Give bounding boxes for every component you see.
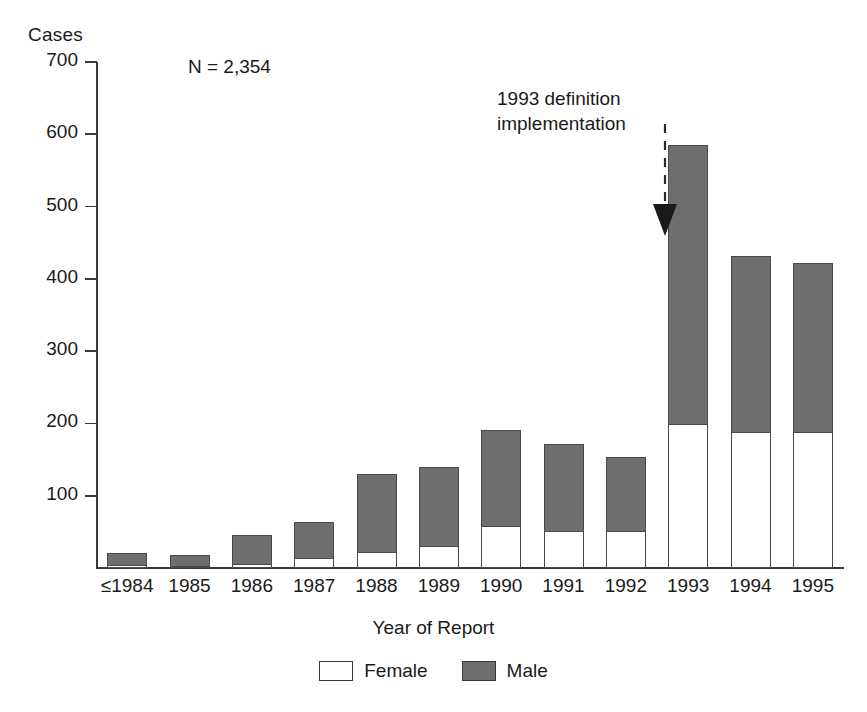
legend-item: Male xyxy=(462,660,548,682)
x-axis-title: Year of Report xyxy=(0,617,867,639)
bar-group xyxy=(606,456,646,568)
x-axis-tick-labels: ≤198419851986198719881989199019911992199… xyxy=(96,575,844,605)
bar-segment-male xyxy=(294,522,334,560)
dashed-down-arrow-icon xyxy=(648,124,682,238)
definition-callout-line1: 1993 definition xyxy=(497,86,626,111)
y-tick-label: 200 xyxy=(22,410,78,432)
bar-segment-male xyxy=(170,555,210,567)
bar-segment-male xyxy=(793,263,833,432)
bar-group xyxy=(419,466,459,568)
bar-segment-male xyxy=(419,467,459,547)
bar-segment-female xyxy=(481,526,521,568)
bar-segment-female xyxy=(793,431,833,568)
bar-segment-female xyxy=(544,530,584,568)
legend-item: Female xyxy=(319,660,427,682)
y-tick-label: 700 xyxy=(22,49,78,71)
bar-group xyxy=(544,443,584,568)
bar-segment-male xyxy=(544,444,584,531)
bar-segment-male xyxy=(606,457,646,531)
bar-segment-female xyxy=(606,530,646,568)
bar-group xyxy=(793,262,833,568)
legend-swatch-male xyxy=(462,661,496,681)
legend-label: Female xyxy=(364,660,427,682)
legend-label: Male xyxy=(507,660,548,682)
y-tick-label: 100 xyxy=(22,483,78,505)
y-tick-label: 400 xyxy=(22,266,78,288)
bar-segment-female xyxy=(419,546,459,568)
bar-segment-male xyxy=(357,474,397,554)
bar-segment-male xyxy=(107,553,147,566)
bar-segment-male xyxy=(481,430,521,528)
y-tick-label: 600 xyxy=(22,121,78,143)
y-tick-label: 500 xyxy=(22,194,78,216)
bar-segment-male xyxy=(232,535,272,565)
bar-segment-female xyxy=(731,432,771,568)
legend-swatch-female xyxy=(319,661,353,681)
definition-callout-line2: implementation xyxy=(497,111,626,136)
bar-group xyxy=(170,554,210,568)
bar-group xyxy=(731,254,771,568)
bar-group xyxy=(481,429,521,569)
bar-series-layer xyxy=(96,62,844,568)
chart-legend: FemaleMale xyxy=(0,660,867,682)
y-axis-title: Cases xyxy=(28,24,83,46)
bar-segment-male xyxy=(731,256,771,434)
bar-group xyxy=(357,473,397,568)
bar-group xyxy=(294,520,334,568)
bar-group xyxy=(232,533,272,568)
chart-figure: Cases N = 2,354 700600500400300200100 ≤1… xyxy=(0,0,867,712)
bar-segment-female xyxy=(357,552,397,568)
bar-segment-female xyxy=(294,558,334,568)
definition-callout: 1993 definition implementation xyxy=(497,86,626,136)
bar-group xyxy=(107,552,147,568)
x-tick-label: 1995 xyxy=(768,575,858,597)
y-tick-label: 300 xyxy=(22,338,78,360)
bar-segment-female xyxy=(668,423,708,568)
